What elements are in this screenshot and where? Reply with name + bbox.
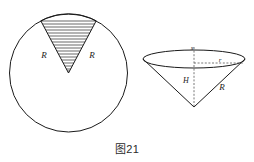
right-diagram-group: s r H R — [143, 44, 245, 107]
figure-caption: 图21 — [0, 140, 254, 156]
left-diagram-group: R R — [10, 14, 128, 132]
geometry-figure: R R s r H R 图21 — [0, 0, 254, 162]
figure-canvas: R R s r H R — [0, 0, 254, 162]
sector-outline — [41, 14, 96, 73]
label-cone-top-mark: s — [191, 44, 194, 52]
label-right-radius: R — [88, 50, 95, 60]
label-left-radius: R — [40, 50, 47, 60]
label-cone-height: H — [182, 76, 190, 85]
sector-hatching-group — [30, 21, 108, 71]
label-cone-slant: R — [218, 82, 225, 92]
label-cone-base-radius: r — [219, 56, 222, 64]
